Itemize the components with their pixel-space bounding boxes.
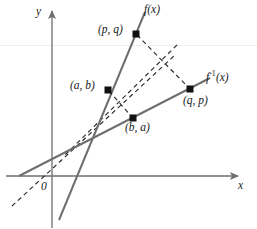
point-label-pq: (p, q) xyxy=(98,24,123,36)
reflection-guide-dashed xyxy=(64,45,177,156)
curve-label-f: f(x) xyxy=(144,4,160,16)
origin-label: 0 xyxy=(41,181,47,193)
curve-label-f-inverse: f-1(x) xyxy=(206,70,229,83)
point-marker-qp xyxy=(187,86,194,93)
x-axis-label: x xyxy=(238,180,243,192)
point-marker-ab xyxy=(105,87,112,94)
curve-label-f-inverse-tail: (x) xyxy=(216,71,229,83)
curve-label-f-inverse-exponent: -1 xyxy=(209,69,216,78)
figure-canvas xyxy=(0,0,257,229)
curve-f-inverse xyxy=(19,78,210,176)
point-label-qp: (q, p) xyxy=(183,95,208,107)
connector-pq-qp xyxy=(137,35,189,88)
point-label-ab: (a, b) xyxy=(70,80,95,92)
y-axis-label: y xyxy=(36,6,41,18)
point-label-ba: (b, a) xyxy=(125,122,150,134)
point-marker-pq xyxy=(133,31,140,38)
inverse-function-figure: y x 0 f(x) f-1(x) (p, q) (a, b) (b, a) (… xyxy=(0,0,257,229)
